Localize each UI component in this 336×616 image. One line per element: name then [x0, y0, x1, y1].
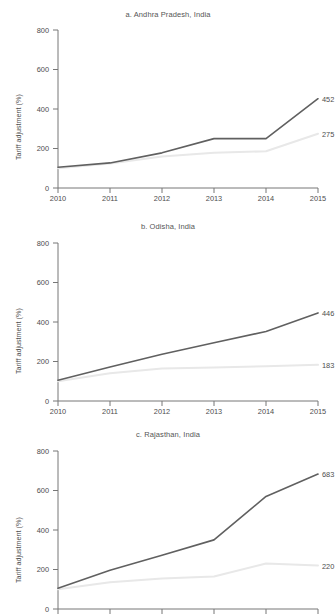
panel-b-x-tick-labels: 2010 2011 2012 2013 2014 2015 — [50, 407, 326, 416]
panel-a-xtick-2012: 2012 — [154, 194, 170, 203]
panel-a-xtick-2015: 2015 — [310, 194, 326, 203]
panel-c-plot: 800 600 400 200 0 683 220 — [0, 428, 336, 616]
panel-b-ytick-200: 200 — [37, 357, 49, 366]
panel-b-ytick-400: 400 — [37, 318, 49, 327]
panel-a-ytick-600: 600 — [37, 65, 49, 74]
panel-a-dark-end-label: 452 — [322, 95, 334, 104]
panel-rajasthan: c. Rajasthan, India Tariff adjustment (%… — [0, 428, 336, 616]
panel-c-y-ticks — [53, 451, 58, 609]
panel-b-xtick-2011: 2011 — [102, 407, 118, 416]
panel-b-xtick-2012: 2012 — [154, 407, 170, 416]
panel-c-dark-series-line — [58, 474, 318, 588]
panel-a-plot: 800 600 400 200 0 2010 2011 2012 2013 20… — [0, 0, 336, 210]
panel-a-ytick-200: 200 — [37, 144, 49, 153]
panel-a-x-tick-labels: 2010 2011 2012 2013 2014 2015 — [50, 194, 326, 203]
panel-a-ytick-800: 800 — [37, 26, 49, 35]
panel-a-light-end-label: 275 — [322, 130, 334, 139]
panel-b-xtick-2014: 2014 — [258, 407, 274, 416]
panel-a-xtick-2010: 2010 — [50, 194, 66, 203]
panel-c-ytick-200: 200 — [37, 565, 49, 574]
panel-a-xtick-2013: 2013 — [206, 194, 222, 203]
panel-a-y-tick-labels: 800 600 400 200 0 — [37, 26, 49, 193]
panel-b-dark-series-line — [58, 313, 318, 380]
panel-odisha: b. Odisha, India Tariff adjustment (%) — [0, 212, 336, 425]
panel-c-x-ticks — [58, 609, 318, 614]
panel-c-light-series-line — [58, 564, 318, 590]
panel-b-ytick-0: 0 — [45, 397, 49, 406]
panel-b-ytick-600: 600 — [37, 278, 49, 287]
panel-a-light-series-line — [58, 134, 318, 169]
panel-b-x-ticks — [58, 401, 318, 406]
panel-c-ytick-400: 400 — [37, 526, 49, 535]
panel-a-xtick-2011: 2011 — [102, 194, 118, 203]
panel-a-x-ticks — [58, 188, 318, 193]
panel-a-xtick-2014: 2014 — [258, 194, 274, 203]
panel-andhra-pradesh: a. Andhra Pradesh, India Tariff adjustme… — [0, 0, 336, 210]
panel-a-y-ticks — [53, 30, 58, 188]
panel-c-ytick-800: 800 — [37, 447, 49, 456]
panel-b-xtick-2010: 2010 — [50, 407, 66, 416]
panel-a-dark-series-line — [58, 99, 318, 168]
panel-c-axes — [58, 451, 318, 609]
panel-c-light-end-label: 220 — [322, 562, 334, 571]
panel-b-xtick-2013: 2013 — [206, 407, 222, 416]
panel-b-y-tick-labels: 800 600 400 200 0 — [37, 239, 49, 406]
panel-c-y-tick-labels: 800 600 400 200 0 — [37, 447, 49, 614]
panel-c-ytick-0: 0 — [45, 605, 49, 614]
panel-c-dark-end-label: 683 — [322, 470, 334, 479]
panel-b-dark-end-label: 446 — [322, 309, 334, 318]
panel-b-light-series-line — [58, 365, 318, 381]
panel-a-ytick-0: 0 — [45, 184, 49, 193]
panel-b-axes — [58, 243, 318, 401]
panel-b-ytick-800: 800 — [37, 239, 49, 248]
panel-b-plot: 800 600 400 200 0 2010 2011 2012 2013 20… — [0, 212, 336, 425]
panel-a-ytick-400: 400 — [37, 105, 49, 114]
figure-container: · · · a. Andhra Pradesh, India Tariff ad… — [0, 0, 336, 616]
panel-b-light-end-label: 183 — [322, 361, 334, 370]
panel-b-y-ticks — [53, 243, 58, 401]
panel-c-ytick-600: 600 — [37, 486, 49, 495]
panel-b-xtick-2015: 2015 — [310, 407, 326, 416]
